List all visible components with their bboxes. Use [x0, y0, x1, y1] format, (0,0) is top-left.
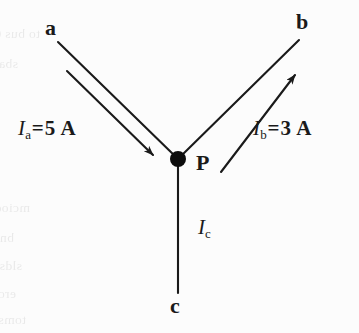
current-label-c: Ic	[198, 217, 211, 238]
current-junction-figure: to bus 01 10 wires tuonelosen of boo 2 e…	[0, 0, 359, 333]
junction-point-dot	[170, 151, 186, 167]
node-label-b: b	[296, 11, 308, 33]
current-a-unit: A	[61, 116, 76, 140]
current-c-subscript: c	[205, 226, 211, 241]
current-arrow-a	[67, 71, 153, 155]
current-a-equals: =	[31, 116, 45, 140]
current-b-equals: =	[267, 116, 281, 140]
current-a-value: 5	[45, 116, 56, 140]
junction-label-p: P	[196, 152, 209, 174]
current-a-subscript: a	[25, 127, 31, 142]
current-b-subscript: b	[260, 127, 267, 142]
current-b-value: 3	[280, 116, 291, 140]
current-c-symbol: I	[198, 215, 205, 239]
current-label-a: Ia=5 A	[18, 118, 76, 139]
junction-diagram-svg	[0, 0, 359, 333]
node-label-c: c	[170, 295, 180, 317]
current-b-unit: A	[296, 116, 311, 140]
node-label-a: a	[45, 17, 56, 39]
current-a-symbol: I	[18, 116, 25, 140]
current-b-symbol: I	[253, 116, 260, 140]
current-label-b: Ib=3 A	[253, 118, 311, 139]
